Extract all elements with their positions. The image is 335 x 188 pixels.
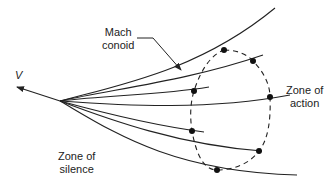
point (214, 167, 220, 173)
zone-of-silence-label: Zone of silence (58, 150, 95, 176)
point (250, 58, 256, 64)
velocity-arrow (17, 87, 60, 101)
wavefront-points (189, 47, 273, 173)
mach-conoid-label-line1: Mach (102, 26, 134, 39)
point (256, 148, 262, 154)
ray-4 (60, 95, 290, 106)
mach-conoid-label: Mach conoid (102, 26, 134, 52)
zone-of-action-line1: Zone of (286, 84, 323, 97)
ray-3 (60, 87, 209, 101)
zone-of-silence-line1: Zone of (58, 150, 95, 163)
point (189, 128, 195, 134)
point (191, 88, 197, 94)
mach-conoid-leader (137, 38, 181, 70)
mach-conoid-diagram (0, 0, 335, 188)
point (267, 94, 273, 100)
mach-conoid-label-line2: conoid (102, 39, 134, 52)
velocity-label: V (15, 69, 22, 82)
ray-2 (60, 55, 263, 101)
point (221, 47, 227, 53)
zone-of-silence-line2: silence (58, 163, 95, 176)
zone-of-action-label: Zone of action (286, 84, 323, 110)
zone-of-action-line2: action (286, 97, 323, 110)
